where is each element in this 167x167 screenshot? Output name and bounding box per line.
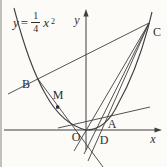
line-b-m-d (38, 79, 103, 167)
parabola-equation: y = 1 4 x2 (13, 9, 55, 35)
y-axis-label: y (73, 13, 80, 27)
fraction-numerator: 1 (31, 11, 40, 22)
line-c-a-extended (88, 23, 149, 161)
line-c-d-extended (84, 23, 149, 154)
x-axis-label: x (149, 132, 156, 146)
point-label-a: A (108, 117, 117, 131)
equation-equals: = (21, 16, 28, 29)
point-label-m: M (53, 88, 64, 102)
equation-fraction: 1 4 (31, 11, 40, 34)
y-axis-arrow-icon (83, 9, 88, 17)
equation-lhs: y (13, 16, 19, 29)
point-label-d: D (100, 133, 109, 147)
parabola-figure: B M C A D O x y y = 1 4 x2 (0, 0, 167, 167)
fraction-denominator: 4 (31, 22, 40, 34)
point-label-b: B (22, 77, 30, 91)
point-label-o: O (72, 130, 81, 144)
equation-variable: x (43, 16, 49, 29)
point-label-c: C (153, 25, 161, 39)
point-m-dot (56, 106, 59, 109)
